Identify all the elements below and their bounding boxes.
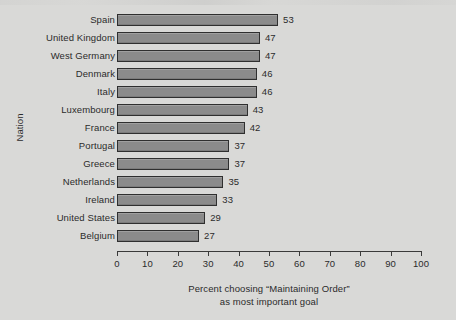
x-axis-tick [117, 251, 118, 256]
x-axis-tick [147, 251, 148, 256]
bar-row: Spain53 [0, 13, 456, 31]
bar-track [117, 14, 421, 26]
bar-value-label: 46 [262, 68, 273, 80]
category-label: United States [0, 212, 115, 224]
bar-value-label: 53 [283, 14, 294, 26]
x-axis-tick [330, 251, 331, 256]
bar-track [117, 104, 421, 116]
bar [117, 32, 260, 44]
category-label: West Germany [0, 50, 115, 62]
bar-row: Italy46 [0, 85, 456, 103]
bar-track [117, 122, 421, 134]
bar-track [117, 230, 421, 242]
category-label: Luxembourg [0, 104, 115, 116]
bar-track [117, 194, 421, 206]
category-label: France [0, 122, 115, 134]
x-axis-tick [421, 251, 422, 256]
category-label: Netherlands [0, 176, 115, 188]
bar-value-label: 46 [262, 86, 273, 98]
bar [117, 50, 260, 62]
bar-value-label: 43 [253, 104, 264, 116]
x-axis-tick [239, 251, 240, 256]
bar-value-label: 29 [210, 212, 221, 224]
bar [117, 230, 199, 242]
bar-row: Denmark46 [0, 67, 456, 85]
category-label: Greece [0, 158, 115, 170]
x-axis-label-line1: Percent choosing “Maintaining Order” [117, 283, 421, 296]
category-label: Denmark [0, 68, 115, 80]
horizontal-bar-chart: Nation Spain53United Kingdom47West Germa… [0, 0, 456, 320]
bar [117, 140, 229, 152]
bar-value-label: 47 [265, 32, 276, 44]
category-label: Belgium [0, 230, 115, 242]
bar [117, 122, 245, 134]
category-label: United Kingdom [0, 32, 115, 44]
bar-row: United Kingdom47 [0, 31, 456, 49]
bar-value-label: 27 [204, 230, 215, 242]
x-axis-tick [391, 251, 392, 256]
bar-value-label: 37 [234, 158, 245, 170]
bar [117, 194, 217, 206]
x-axis-tick [269, 251, 270, 256]
bar-value-label: 35 [228, 176, 239, 188]
bar-row: France42 [0, 121, 456, 139]
bar-rows: Spain53United Kingdom47West Germany47Den… [0, 13, 456, 247]
bar-row: Greece37 [0, 157, 456, 175]
bar [117, 68, 257, 80]
bar-track [117, 158, 421, 170]
bar [117, 176, 223, 188]
category-label: Spain [0, 14, 115, 26]
x-axis-label-line2: as most important goal [117, 296, 421, 309]
x-axis-tick [299, 251, 300, 256]
bar-row: West Germany47 [0, 49, 456, 67]
bar-row: Portugal37 [0, 139, 456, 157]
bar-track [117, 176, 421, 188]
x-axis-tick [178, 251, 179, 256]
bar [117, 14, 278, 26]
bar-row: Netherlands35 [0, 175, 456, 193]
category-label: Italy [0, 86, 115, 98]
bar-value-label: 42 [250, 122, 261, 134]
bar-row: Belgium27 [0, 229, 456, 247]
bar-track [117, 212, 421, 224]
category-label: Portugal [0, 140, 115, 152]
bar-value-label: 33 [222, 194, 233, 206]
x-axis-tick-label: 100 [401, 258, 441, 269]
bar-row: United States29 [0, 211, 456, 229]
bar [117, 86, 257, 98]
bar-track [117, 140, 421, 152]
bar-value-label: 37 [234, 140, 245, 152]
x-axis-tick [360, 251, 361, 256]
bar [117, 212, 205, 224]
x-axis-tick [208, 251, 209, 256]
bar-row: Ireland33 [0, 193, 456, 211]
bar-value-label: 47 [265, 50, 276, 62]
bar [117, 104, 248, 116]
x-axis-label: Percent choosing “Maintaining Order” as … [117, 283, 421, 308]
bar-row: Luxembourg43 [0, 103, 456, 121]
category-label: Ireland [0, 194, 115, 206]
bar [117, 158, 229, 170]
